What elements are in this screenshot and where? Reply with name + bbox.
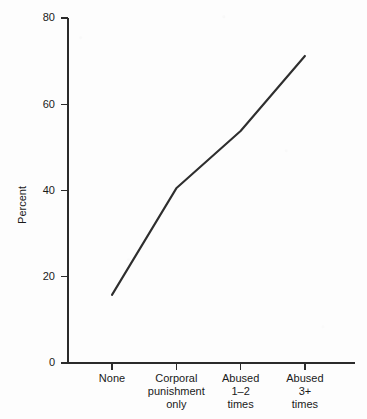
x-tick-label: times bbox=[292, 398, 319, 410]
x-tick-label: 1–2 bbox=[231, 385, 249, 397]
x-tick-label-group: NoneCorporalpunishmentonlyAbused1–2times… bbox=[99, 372, 324, 410]
y-axis-title-group: Percent bbox=[16, 186, 28, 224]
y-tick-label-group: 020406080 bbox=[43, 11, 55, 368]
x-tick-label: Abused bbox=[222, 372, 259, 384]
y-tick-label: 80 bbox=[43, 11, 55, 23]
y-tick-label: 60 bbox=[43, 98, 55, 110]
y-tick-label: 20 bbox=[43, 270, 55, 282]
x-tick-label: Abused bbox=[286, 372, 323, 384]
y-tick-group bbox=[61, 18, 68, 363]
x-tick-group bbox=[112, 363, 305, 370]
y-axis-title: Percent bbox=[16, 186, 28, 224]
x-tick-label: times bbox=[227, 398, 254, 410]
x-tick-label: punishment bbox=[148, 385, 205, 397]
line-chart: 020406080 NoneCorporalpunishmentonlyAbus… bbox=[0, 0, 367, 419]
y-tick-label: 40 bbox=[43, 184, 55, 196]
x-tick-label: None bbox=[99, 372, 125, 384]
data-series-line bbox=[112, 56, 305, 295]
x-tick-label: only bbox=[166, 398, 187, 410]
x-tick-label: Corporal bbox=[155, 372, 197, 384]
x-tick-label: 3+ bbox=[299, 385, 312, 397]
y-tick-label: 0 bbox=[49, 356, 55, 368]
chart-figure: 020406080 NoneCorporalpunishmentonlyAbus… bbox=[0, 0, 367, 419]
